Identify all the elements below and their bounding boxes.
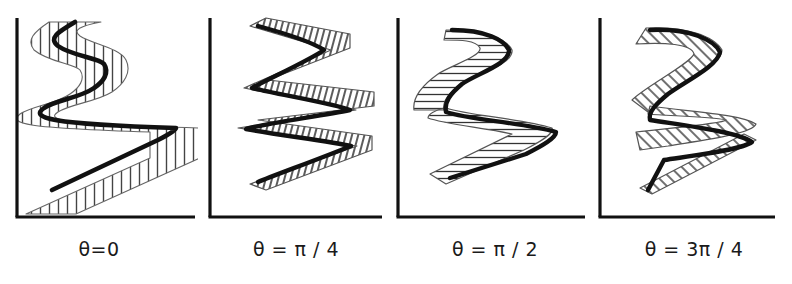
panel-4-plot xyxy=(596,0,792,232)
panel-3-hatched-band xyxy=(414,30,552,184)
panel-4-label: θ = 3π / 4 xyxy=(596,240,792,259)
panel-1-plot xyxy=(0,0,198,232)
panel-2-plot xyxy=(198,0,394,232)
panel-theta-3pi-over-4: θ = 3π / 4 xyxy=(596,0,792,284)
panel-3-plot xyxy=(394,0,596,232)
panel-1-hatched-band xyxy=(14,22,198,215)
figure-container: θ=0 θ = π / 4 xyxy=(0,0,792,284)
panel-2-label: θ = π / 4 xyxy=(198,240,394,259)
panel-1-label: θ=0 xyxy=(0,240,198,259)
panel-theta-pi-over-4: θ = π / 4 xyxy=(198,0,394,284)
panel-theta-0: θ=0 xyxy=(0,0,198,284)
panel-theta-pi-over-2: θ = π / 2 xyxy=(394,0,596,284)
panel-3-label: θ = π / 2 xyxy=(394,240,596,259)
